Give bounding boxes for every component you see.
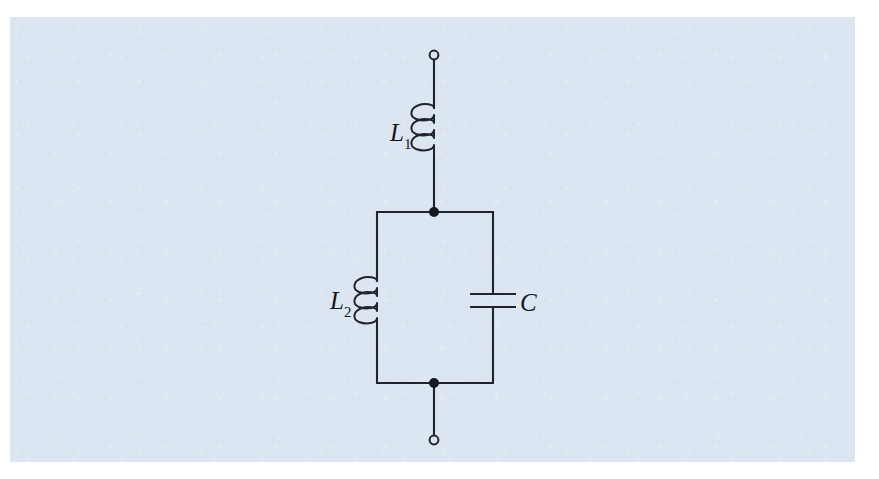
capacitor-c — [470, 294, 516, 307]
label-c-symbol: C — [520, 289, 537, 316]
node-top — [429, 207, 439, 217]
label-c: C — [520, 290, 537, 315]
label-l1-symbol: L — [390, 119, 404, 146]
inductor-l1 — [411, 104, 434, 157]
label-l2-subscript: 2 — [344, 304, 352, 320]
terminal-top — [430, 51, 439, 60]
label-l2: L2 — [330, 288, 351, 316]
circuit-schematic — [0, 0, 879, 479]
inductor-l2 — [354, 277, 377, 325]
parallel-branch-frame — [377, 212, 493, 383]
node-bottom — [429, 378, 439, 388]
figure-canvas: L1 L2 C — [0, 0, 879, 479]
label-l2-symbol: L — [330, 287, 344, 314]
terminal-bottom — [430, 436, 439, 445]
label-l1-subscript: 1 — [404, 136, 412, 152]
label-l1: L1 — [390, 120, 411, 148]
